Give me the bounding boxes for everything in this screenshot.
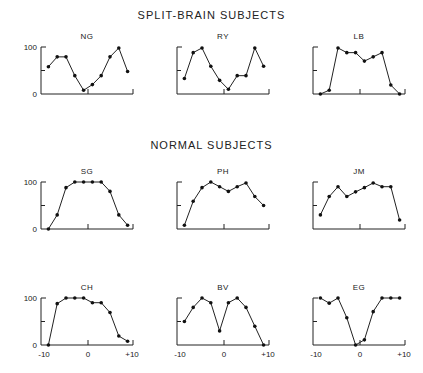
- data-point: [380, 296, 384, 300]
- data-point: [191, 306, 195, 310]
- data-point: [319, 296, 323, 300]
- data-point: [209, 64, 213, 68]
- data-point: [108, 55, 112, 59]
- small-multiples-chart-grid: NG1000RYLBSG1000PHJMCH1000-100+10BV-100+…: [0, 0, 423, 373]
- data-point: [117, 213, 121, 217]
- data-point: [55, 213, 59, 217]
- data-point: [117, 334, 121, 338]
- panel-bv: BV-100+10: [174, 283, 275, 359]
- data-point: [64, 55, 68, 59]
- data-line: [48, 298, 127, 345]
- y-tick-label-100: 100: [24, 43, 38, 52]
- data-point: [363, 59, 367, 63]
- data-point: [200, 46, 204, 50]
- x-tick-label-left: -10: [38, 350, 50, 359]
- data-point: [55, 55, 59, 59]
- data-line: [184, 298, 263, 345]
- panel-title: NG: [81, 32, 94, 41]
- data-point: [319, 213, 323, 217]
- data-point: [99, 180, 103, 184]
- x-tick-label-right: +10: [261, 350, 275, 359]
- panel-sg: SG1000: [24, 167, 133, 234]
- y-tick-label-0: 0: [33, 341, 38, 350]
- data-point: [345, 51, 349, 55]
- data-point: [253, 324, 257, 328]
- data-line: [320, 298, 399, 345]
- data-point: [244, 74, 248, 78]
- data-point: [244, 306, 248, 310]
- x-axis: [177, 224, 269, 229]
- data-point: [363, 186, 367, 190]
- data-point: [117, 46, 121, 50]
- data-point: [398, 218, 402, 222]
- data-point: [380, 51, 384, 55]
- data-point: [398, 296, 402, 300]
- data-point: [227, 190, 231, 194]
- panel-title: EG: [353, 283, 366, 292]
- data-point: [64, 186, 68, 190]
- panel-title: RY: [217, 32, 229, 41]
- data-point: [380, 185, 384, 189]
- data-line: [48, 182, 127, 229]
- data-point: [99, 74, 103, 78]
- x-tick-label-right: +10: [125, 350, 139, 359]
- panel-title: SG: [81, 167, 94, 176]
- data-point: [389, 296, 393, 300]
- data-point: [200, 296, 204, 300]
- data-point: [336, 185, 340, 189]
- data-point: [218, 329, 222, 333]
- data-point: [191, 199, 195, 203]
- x-axis: [41, 340, 133, 345]
- x-axis: [41, 89, 133, 94]
- data-line: [184, 182, 263, 225]
- data-point: [354, 343, 358, 347]
- data-point: [183, 77, 187, 81]
- data-point: [91, 301, 95, 305]
- data-point: [371, 181, 375, 185]
- data-point: [126, 223, 130, 227]
- data-point: [345, 316, 349, 320]
- data-point: [235, 185, 239, 189]
- panel-title: CH: [81, 283, 94, 292]
- x-tick-label-mid: 0: [222, 350, 227, 359]
- data-point: [336, 296, 340, 300]
- x-tick-label-right: +10: [397, 350, 411, 359]
- data-line: [184, 48, 263, 89]
- data-point: [82, 180, 86, 184]
- panel-lb: LB: [313, 32, 405, 96]
- data-point: [218, 185, 222, 189]
- x-tick-label-mid: 0: [86, 350, 91, 359]
- data-point: [327, 88, 331, 92]
- data-point: [253, 46, 257, 50]
- data-point: [371, 310, 375, 314]
- panel-ch: CH1000-100+10: [24, 283, 140, 359]
- data-point: [126, 339, 130, 343]
- data-point: [73, 74, 77, 78]
- y-tick-label-100: 100: [24, 178, 38, 187]
- panel-ng: NG1000: [24, 32, 133, 99]
- data-point: [227, 88, 231, 92]
- data-point: [336, 46, 340, 50]
- data-point: [227, 301, 231, 305]
- data-point: [99, 301, 103, 305]
- data-point: [47, 65, 51, 69]
- data-point: [354, 190, 358, 194]
- x-axis: [177, 340, 269, 345]
- data-line: [320, 48, 399, 94]
- y-tick-label-0: 0: [33, 225, 38, 234]
- data-point: [183, 320, 187, 324]
- panel-ry: RY: [177, 32, 269, 94]
- data-point: [327, 301, 331, 305]
- data-point: [108, 311, 112, 315]
- y-tick-label-0: 0: [33, 90, 38, 99]
- data-point: [209, 180, 213, 184]
- x-axis: [177, 89, 269, 94]
- data-point: [218, 79, 222, 83]
- panel-ph: PH: [177, 167, 269, 229]
- data-point: [235, 296, 239, 300]
- data-point: [253, 195, 257, 199]
- data-point: [73, 296, 77, 300]
- data-point: [262, 64, 266, 68]
- data-point: [82, 296, 86, 300]
- data-point: [345, 195, 349, 199]
